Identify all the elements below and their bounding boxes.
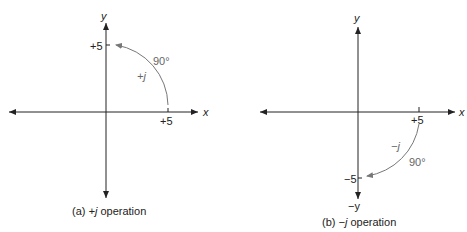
neg-y-axis-label: −y: [348, 200, 360, 212]
caption-suffix: operation: [97, 205, 146, 217]
caption-suffix: operation: [347, 216, 396, 228]
arc-label: −j: [391, 140, 400, 152]
caption-b: (b) −j operation: [322, 216, 396, 228]
x-tick-label: +5: [160, 115, 173, 127]
x-axis-label: x: [458, 106, 465, 118]
y-tick-label: +5: [90, 40, 103, 52]
caption-prefix: (a): [72, 205, 89, 217]
y-tick-label: −5: [344, 173, 357, 185]
arc-label: +j: [137, 70, 146, 82]
angle-label: 90°: [153, 55, 170, 67]
panel-b: y x −y +5 −5 −j 90° (b) −j operation: [260, 12, 465, 228]
y-axis-label: y: [100, 10, 108, 22]
x-axis-label: x: [202, 106, 209, 118]
panel-a: y x +5 +5 90° +j (a) +j operation: [9, 10, 209, 217]
angle-label: 90°: [409, 156, 426, 168]
y-axis-label: y: [353, 12, 361, 24]
caption-a: (a) +j operation: [72, 205, 146, 217]
caption-prefix: (b): [322, 216, 339, 228]
x-tick-label: +5: [411, 114, 424, 126]
figure-canvas: y x +5 +5 90° +j (a) +j operation y x −y…: [0, 0, 467, 232]
